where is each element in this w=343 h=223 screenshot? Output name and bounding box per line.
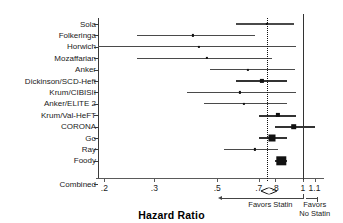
- x-tick: [104, 178, 105, 182]
- y-tick: [94, 70, 98, 71]
- effect-estimate-marker: [254, 148, 256, 150]
- effect-estimate-marker: [243, 103, 245, 105]
- study-label: CORONA: [61, 122, 96, 131]
- effect-estimate-marker: [291, 124, 297, 130]
- confidence-interval-bar: [187, 92, 297, 93]
- confidence-interval-bar: [137, 35, 256, 36]
- x-tick-label: 1: [300, 183, 305, 193]
- y-axis-line: [98, 18, 99, 178]
- study-label: Krum/Val-HeFT: [41, 111, 96, 120]
- effect-estimate-marker: [260, 79, 264, 83]
- effect-estimate-marker: [192, 34, 194, 36]
- x-tick: [315, 178, 316, 182]
- y-tick: [94, 35, 98, 36]
- favors-statin-arrow-line: [222, 198, 303, 199]
- x-tick-label: .2: [101, 183, 108, 193]
- null-effect-line: [267, 18, 269, 181]
- x-axis-line: [96, 178, 324, 179]
- y-tick: [94, 138, 98, 139]
- confidence-interval-bar: [224, 149, 278, 150]
- plot-area: .2.3.5.7.811.1 Favors StatinFavorsNo Sta…: [98, 18, 320, 178]
- effect-estimate-marker: [247, 69, 249, 71]
- x-tick: [259, 178, 260, 182]
- x-tick-label: .3: [151, 183, 158, 193]
- x-axis-title: Hazard Ratio: [0, 209, 343, 221]
- effect-estimate-marker: [269, 135, 276, 142]
- y-tick: [94, 81, 98, 82]
- study-label: Folkeringa: [59, 31, 96, 40]
- confidence-interval-bar: [236, 23, 294, 24]
- study-label: Anker: [75, 65, 96, 74]
- study-label: Foody: [74, 156, 96, 165]
- x-tick: [154, 178, 155, 182]
- y-tick: [94, 115, 98, 116]
- combined-effect-diamond: [261, 181, 277, 188]
- confidence-interval-bar: [137, 58, 272, 59]
- study-label: Dickinson/SCD-Heft: [25, 77, 96, 86]
- favors-no-statin-arrow-line: [306, 198, 317, 199]
- study-label: Krum/CIBISII: [49, 88, 96, 97]
- combined-label: Combined: [60, 180, 96, 189]
- x-tick: [217, 178, 218, 182]
- x-tick-label: 1.1: [309, 183, 321, 193]
- unity-reference-line: [303, 14, 304, 180]
- confidence-interval-bar: [210, 69, 295, 70]
- effect-estimate-marker: [206, 57, 208, 59]
- effect-estimate-marker: [277, 156, 286, 165]
- y-tick: [94, 92, 98, 93]
- study-label: Mozaffarian: [54, 54, 96, 63]
- effect-estimate-marker: [198, 46, 200, 48]
- y-tick: [94, 127, 98, 128]
- study-label: Horwich: [67, 42, 96, 51]
- favors-statin-arrowhead: [218, 196, 222, 200]
- favors-statin-end-tick: [303, 194, 304, 199]
- y-tick: [94, 58, 98, 59]
- y-tick: [94, 161, 98, 162]
- study-label-column: SolaFolkeringaHorwichMozaffarianAnkerDic…: [0, 0, 96, 190]
- effect-estimate-marker: [276, 113, 280, 117]
- x-tick-label: .5: [214, 183, 221, 193]
- y-tick: [94, 24, 98, 25]
- y-tick-combined: [94, 184, 98, 185]
- y-tick: [94, 149, 98, 150]
- study-label: Anker/ELITE 2: [44, 99, 96, 108]
- effect-estimate-marker: [239, 91, 241, 93]
- forest-plot-figure: SolaFolkeringaHorwichMozaffarianAnkerDic…: [0, 0, 343, 223]
- y-tick: [94, 104, 98, 105]
- confidence-interval-bar: [204, 103, 287, 104]
